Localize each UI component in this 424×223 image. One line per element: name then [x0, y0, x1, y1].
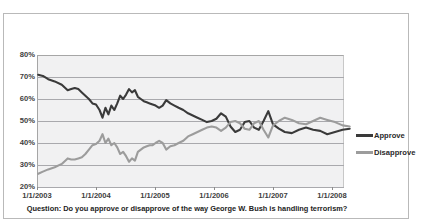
legend-item-approve: Approve	[356, 127, 424, 144]
x-axis-tick-label: 1/1/2005	[140, 192, 170, 200]
x-axis-tick-mark	[273, 187, 274, 190]
x-axis-tick-mark	[37, 187, 38, 190]
x-axis-tick-mark	[214, 187, 215, 190]
gridlines	[37, 55, 344, 187]
legend-label-disapprove: Disapprove	[374, 148, 415, 157]
legend-swatch-disapprove	[356, 151, 373, 154]
y-axis-tick-label: 60%	[5, 95, 35, 103]
x-axis-tick-label: 1/1/2003	[22, 192, 52, 200]
x-axis: 1/1/20031/1/20041/1/20051/1/20061/1/2007…	[37, 190, 344, 202]
x-axis-tick-label: 1/1/2006	[199, 192, 229, 200]
chart-caption: Question: Do you approve or disapprove o…	[22, 204, 352, 214]
y-axis-tick-label: 80%	[5, 51, 35, 59]
series-paths	[38, 75, 350, 174]
legend-item-disapprove: Disapprove	[356, 144, 424, 161]
x-axis-tick-label: 1/1/2008	[317, 192, 347, 200]
y-axis-tick-label: 30%	[5, 161, 35, 169]
plot-area	[37, 55, 344, 187]
legend-label-approve: Approve	[374, 131, 405, 140]
series-line-approve	[38, 75, 350, 134]
x-axis-tick-mark	[332, 187, 333, 190]
y-axis-tick-label: 20%	[5, 183, 35, 191]
y-axis-tick-label: 40%	[5, 139, 35, 147]
y-axis-tick-label: 50%	[5, 117, 35, 125]
legend-swatch-approve	[356, 134, 373, 137]
chart-frame: 20%30%40%50%60%70%80% 1/1/20031/1/20041/…	[3, 13, 409, 219]
x-axis-tick-label: 1/1/2007	[258, 192, 288, 200]
chart-legend: Approve Disapprove	[356, 127, 424, 161]
plot-lines	[37, 55, 344, 187]
y-axis-tick-label: 70%	[5, 73, 35, 81]
x-axis-tick-mark	[96, 187, 97, 190]
x-axis-tick-label: 1/1/2004	[81, 192, 111, 200]
x-axis-tick-mark	[155, 187, 156, 190]
y-axis: 20%30%40%50%60%70%80%	[4, 55, 35, 187]
